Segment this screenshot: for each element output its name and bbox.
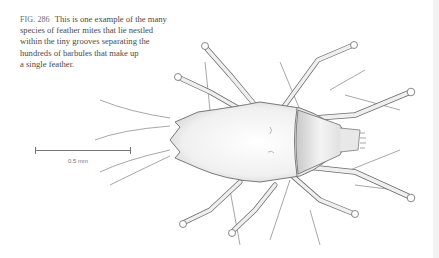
leg-claw [175, 74, 182, 81]
leg-claw [351, 42, 358, 49]
leg-claw [229, 230, 236, 237]
leg-claw [202, 43, 209, 50]
leg-claw [352, 211, 359, 218]
leg-third-right [180, 182, 241, 228]
leg-fourth-right [229, 185, 276, 237]
feather-mite-illustration [0, 0, 439, 258]
leg-claw [180, 221, 187, 228]
gnathosoma [340, 128, 360, 152]
leg-claw [407, 88, 415, 96]
leg-third-left [202, 43, 256, 106]
mouthparts [360, 133, 366, 148]
leg-claw [407, 194, 415, 202]
leg-front-left [280, 42, 358, 113]
